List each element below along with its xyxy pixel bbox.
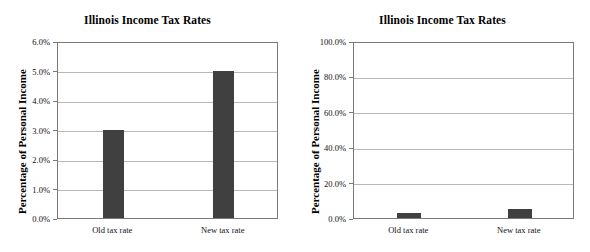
y-axis-tick-label: 1.0% (0, 186, 50, 195)
y-axis-tick-label: 5.0% (0, 68, 50, 77)
y-axis-tick-label: 2.0% (0, 156, 50, 165)
bar (397, 213, 421, 218)
y-axis-tick-label: 40.0% (295, 144, 346, 153)
y-axis-tick-label: 3.0% (0, 127, 50, 136)
x-axis-tick-label: Old tax rate (363, 226, 453, 235)
chart-title-left: Illinois Income Tax Rates (0, 14, 295, 26)
gridline (58, 161, 277, 162)
y-axis-tick-label: 20.0% (295, 180, 346, 189)
gridline (58, 131, 277, 132)
y-axis-tick-label: 60.0% (295, 109, 346, 118)
chart-title-right: Illinois Income Tax Rates (295, 14, 590, 26)
x-axis-tick-label: New tax rate (178, 226, 268, 235)
chart-panel-right: Illinois Income Tax Rates Percentage of … (295, 0, 590, 252)
bar (213, 71, 234, 219)
y-axis-tick-label: 100.0% (295, 38, 346, 47)
y-axis-tick-label: 4.0% (0, 97, 50, 106)
gridline (58, 102, 277, 103)
y-axis-tick-label: 0.0% (295, 215, 346, 224)
gridline (58, 190, 277, 191)
x-axis-tick-label: Old tax rate (67, 226, 157, 235)
gridline (354, 149, 573, 150)
chart-panel-left: Illinois Income Tax Rates Percentage of … (0, 0, 295, 252)
figure-root: Illinois Income Tax Rates Percentage of … (0, 0, 590, 252)
y-axis-tick-label: 0.0% (0, 215, 50, 224)
bar (103, 130, 124, 219)
plot-area-left (57, 42, 278, 219)
plot-area-right (353, 42, 574, 219)
y-axis-tick-label: 80.0% (295, 73, 346, 82)
gridline (354, 78, 573, 79)
gridline (354, 113, 573, 114)
bar (508, 209, 532, 218)
y-axis-tick-label: 6.0% (0, 38, 50, 47)
gridline (354, 184, 573, 185)
y-axis-title-right: Percentage of Personal Income (309, 69, 321, 214)
gridline (58, 72, 277, 73)
x-axis-tick-label: New tax rate (474, 226, 564, 235)
